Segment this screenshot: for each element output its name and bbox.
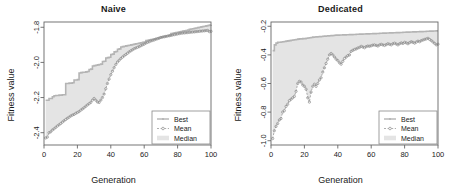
x-axis-tick-label: 40	[334, 150, 342, 159]
x-axis-tick-label: 80	[400, 150, 408, 159]
mean-series-point	[340, 63, 342, 65]
x-axis-tick-label: 0	[269, 150, 273, 159]
y-axis-tick-label: -2.0	[32, 56, 41, 69]
legend-label: Median	[401, 135, 424, 142]
legend-swatch-median	[384, 136, 396, 141]
y-axis-tick-label: -0.8	[259, 106, 268, 119]
x-axis-tick-label: 0	[42, 150, 46, 159]
x-axis-tick-label: 80	[173, 150, 181, 159]
x-axis-tick-label: 40	[107, 150, 115, 159]
mean-series-point	[287, 103, 289, 105]
legend-marker-mean	[389, 127, 392, 130]
y-axis-tick-label: -1.0	[259, 134, 268, 147]
x-axis-tick-label: 60	[367, 150, 375, 159]
y-axis-tick-label: -0.2	[259, 20, 268, 33]
x-axis-tick-label: 20	[300, 150, 308, 159]
plot-area-dedicated: 020406080100-0.2-0.4-0.6-0.8-1.0BestMean…	[227, 0, 454, 190]
legend-swatch-median	[157, 136, 169, 141]
plot-area-naive: 020406080100-1.8-2.0-2.2-2.4BestMeanMedi…	[0, 0, 227, 190]
legend-label: Mean	[401, 125, 419, 132]
x-axis-tick-label: 20	[73, 150, 81, 159]
panel-naive: Naive Fitness value Generation 020406080…	[0, 0, 227, 190]
legend-label: Best	[401, 116, 415, 123]
x-axis-tick-label: 100	[205, 150, 218, 159]
legend-marker-best	[389, 118, 391, 120]
legend-marker-mean	[162, 127, 165, 130]
y-axis-tick-label: -0.4	[259, 48, 268, 61]
x-axis-tick-label: 60	[140, 150, 148, 159]
y-axis-tick-label: -1.8	[32, 21, 41, 34]
legend-label: Median	[174, 135, 197, 142]
legend-marker-best	[162, 118, 164, 120]
legend-label: Mean	[174, 125, 192, 132]
y-axis-tick-label: -0.6	[259, 77, 268, 90]
panel-dedicated: Dedicated Fitness value Generation 02040…	[227, 0, 454, 190]
mean-series-point	[272, 137, 274, 139]
figure-container: Naive Fitness value Generation 020406080…	[0, 0, 454, 190]
x-axis-tick-label: 100	[432, 150, 445, 159]
y-axis-tick-label: -2.4	[32, 126, 41, 139]
legend-label: Best	[174, 116, 188, 123]
mean-series-point	[293, 95, 295, 97]
y-axis-tick-label: -2.2	[32, 91, 41, 104]
mean-series-point	[317, 82, 319, 84]
